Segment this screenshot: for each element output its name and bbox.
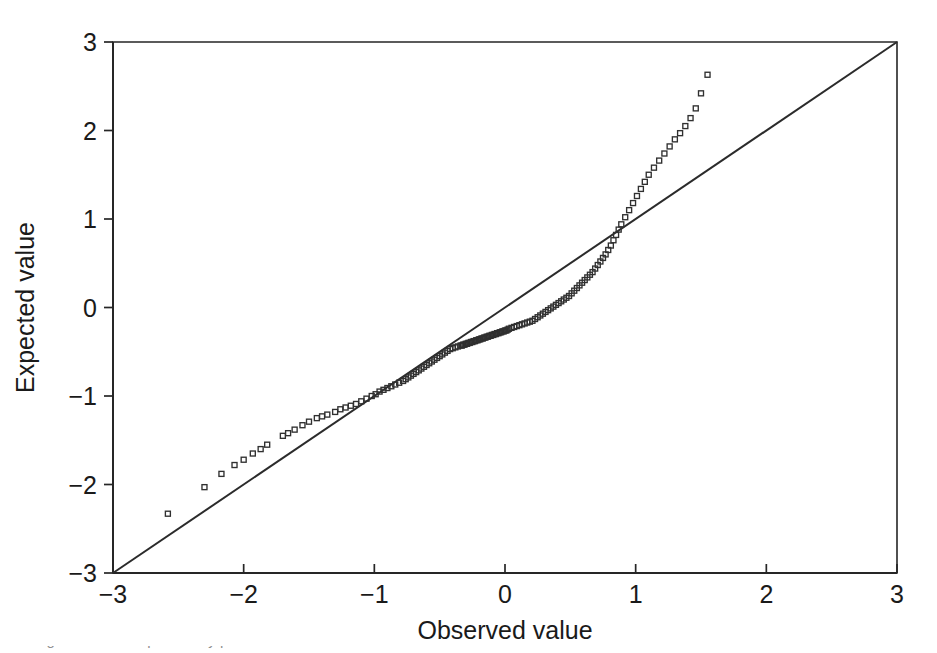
data-point-marker — [638, 186, 643, 191]
data-point-marker — [280, 433, 285, 438]
data-point-marker — [672, 137, 677, 142]
y-tick-label: −3 — [68, 559, 97, 587]
data-point-marker — [619, 222, 624, 227]
data-point-marker — [165, 511, 170, 516]
data-point-marker — [320, 414, 325, 419]
data-point-marker — [325, 412, 330, 417]
data-point-marker — [258, 447, 263, 452]
data-point-marker — [623, 215, 628, 220]
data-point-marker — [343, 405, 348, 410]
data-point-marker — [678, 131, 683, 136]
data-point-markers — [165, 72, 710, 516]
x-tick-label: 3 — [890, 580, 904, 608]
data-point-marker — [300, 423, 305, 428]
figure-caption-clipped: Figure ... normal probability plot — [34, 646, 454, 653]
data-point-marker — [627, 208, 632, 213]
data-point-marker — [705, 72, 710, 77]
data-point-marker — [688, 116, 693, 121]
data-point-marker — [634, 193, 639, 198]
x-axis-title: Observed value — [417, 616, 592, 644]
data-point-marker — [232, 463, 237, 468]
data-point-marker — [693, 106, 698, 111]
figure-caption-text: Figure ... normal probability plot — [34, 646, 244, 648]
data-point-marker — [338, 407, 343, 412]
y-axis-title: Expected value — [11, 222, 39, 393]
data-point-marker — [642, 179, 647, 184]
y-tick-label: 1 — [83, 205, 97, 233]
y-tick-label: 0 — [83, 294, 97, 322]
data-point-marker — [657, 158, 662, 163]
data-point-marker — [250, 451, 255, 456]
data-point-marker — [699, 91, 704, 96]
data-point-marker — [611, 238, 616, 243]
data-point-marker — [307, 419, 312, 424]
x-tick-label: −3 — [99, 580, 128, 608]
x-tick-label: 1 — [629, 580, 643, 608]
data-point-marker — [646, 172, 651, 177]
data-point-marker — [286, 431, 291, 436]
data-point-marker — [631, 201, 636, 206]
data-point-marker — [219, 471, 224, 476]
data-point-marker — [265, 442, 270, 447]
data-point-marker — [314, 416, 319, 421]
data-point-marker — [333, 409, 338, 414]
data-point-marker — [683, 124, 688, 129]
data-point-marker — [292, 427, 297, 432]
axis-tick-labels: −3−2−10123−3−2−10123 — [68, 28, 903, 608]
identity-reference-line — [113, 42, 897, 573]
data-point-marker — [354, 401, 359, 406]
qq-plot-figure: −3−2−10123−3−2−10123 Observed valueExpec… — [0, 0, 937, 653]
data-point-marker — [667, 144, 672, 149]
data-point-marker — [662, 151, 667, 156]
y-tick-label: 3 — [83, 28, 97, 56]
x-tick-label: −2 — [229, 580, 258, 608]
x-tick-label: 2 — [759, 580, 773, 608]
y-tick-label: −1 — [68, 382, 97, 410]
data-point-marker — [651, 165, 656, 170]
data-point-marker — [241, 457, 246, 462]
y-tick-label: 2 — [83, 117, 97, 145]
data-point-marker — [348, 403, 353, 408]
y-tick-label: −2 — [68, 471, 97, 499]
data-point-marker — [202, 485, 207, 490]
identity-line — [113, 42, 897, 573]
qq-plot-canvas: −3−2−10123−3−2−10123 Observed valueExpec… — [0, 0, 937, 653]
x-tick-label: 0 — [498, 580, 512, 608]
x-tick-label: −1 — [360, 580, 389, 608]
